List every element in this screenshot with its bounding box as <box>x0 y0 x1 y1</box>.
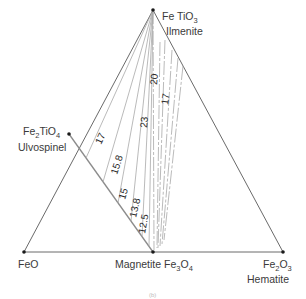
magnetite-dot <box>151 250 155 254</box>
isoline-label-15: 15 <box>116 186 130 200</box>
ilmenite-formula: Fe TiO3 <box>162 10 198 25</box>
isoline-label-12-5: 12.5 <box>136 213 150 235</box>
feo-dot <box>22 250 26 254</box>
isoline-label-17-dashed: 17 <box>159 92 172 105</box>
isoline-label-15-8: 15.8 <box>108 153 125 175</box>
hematite-dot <box>281 250 285 254</box>
figure-caption: (b) <box>149 292 156 298</box>
ulvospinel-name: Ulvospinel <box>18 141 66 153</box>
feo-label: FeO <box>18 258 38 270</box>
isoline-label-20: 20 <box>148 73 160 85</box>
ilmenite-dot <box>151 8 155 12</box>
ulvospinel-dot <box>67 132 71 136</box>
dashed-isolines <box>153 10 183 250</box>
hematite-name: Hematite <box>247 273 289 285</box>
ulvospinel-formula: Fe2TiO4 <box>23 125 60 140</box>
isoline-label-17: 17 <box>93 131 108 146</box>
ulvospinel-magnetite-tie-line <box>69 134 153 252</box>
ilmenite-name: Ilmenite <box>166 25 203 37</box>
ternary-diagram: Fe TiO3 Ilmenite Fe2TiO4 Ulvospinel FeO … <box>0 0 306 299</box>
magnetite-label: Magnetite Fe3O4 <box>115 258 193 273</box>
hematite-formula: Fe2O3 <box>263 258 292 273</box>
isoline-label-23: 23 <box>138 116 150 128</box>
